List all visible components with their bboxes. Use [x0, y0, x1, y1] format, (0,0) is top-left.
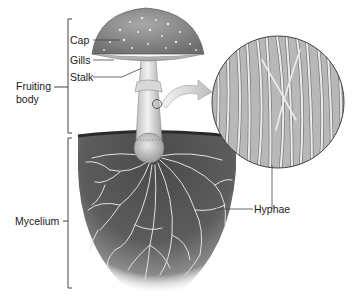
label-mycelium: Mycelium — [15, 215, 59, 227]
leader-stalk — [93, 68, 142, 77]
label-gills: Gills — [70, 54, 90, 66]
mushroom-stalk — [134, 58, 164, 163]
label-fruiting-body-line1: Fruiting — [16, 80, 51, 92]
label-cap: Cap — [70, 34, 89, 46]
label-fruiting-body-line2: body — [16, 93, 39, 105]
mushroom-cap — [92, 8, 204, 61]
label-hyphae: Hyphae — [254, 203, 290, 215]
label-stalk: Stalk — [70, 71, 93, 83]
bracket-mycelium — [63, 138, 72, 288]
magnify-arrow — [162, 80, 212, 108]
fungus-diagram — [0, 0, 360, 301]
